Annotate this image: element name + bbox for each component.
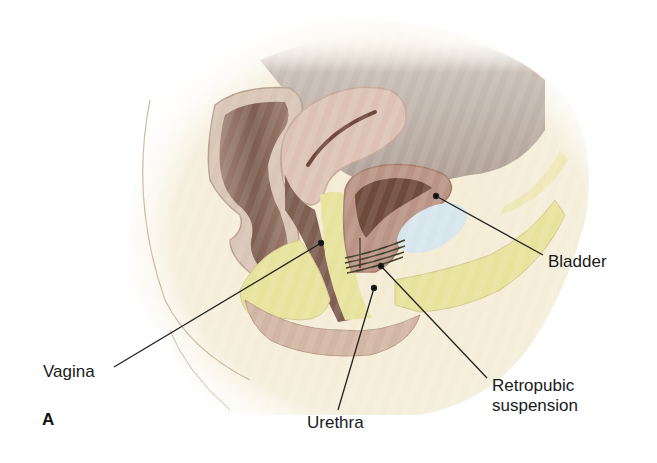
label-bladder: Bladder bbox=[548, 252, 607, 271]
label-urethra: Urethra bbox=[307, 413, 364, 432]
label-vagina: Vagina bbox=[43, 362, 95, 381]
label-retropubic-line1: Retropubic bbox=[492, 376, 574, 395]
panel-letter: A bbox=[42, 410, 54, 430]
label-retropubic-line2: suspension bbox=[492, 396, 578, 415]
